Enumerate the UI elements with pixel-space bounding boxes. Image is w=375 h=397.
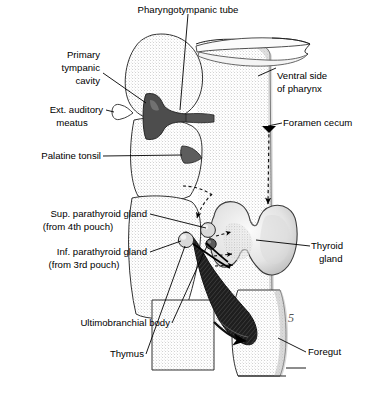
sup-parathyroid-gland — [201, 223, 216, 238]
label-foramen-cecum: Foramen cecum — [283, 117, 352, 128]
label-inf-parathyroid-line2: (from 3rd pouch) — [49, 259, 120, 270]
label-primary-tympanic-cavity-line1: Primary — [67, 49, 100, 60]
anatomy-figure: 5 Pharyngotympanic tube Primary tympanic… — [0, 0, 375, 397]
pharyngotympanic-tube — [186, 113, 214, 122]
label-palatine-tonsil: Palatine tonsil — [41, 150, 101, 161]
label-sup-parathyroid-line1: Sup. parathyroid gland — [50, 208, 147, 219]
label-sup-parathyroid-line2: (from 4th pouch) — [43, 221, 113, 232]
label-pharyngotympanic-tube: Pharyngotympanic tube — [138, 4, 239, 15]
label-ext-auditory-meatus-line2: meatus — [56, 117, 88, 128]
ext-auditory-meatus — [112, 104, 133, 119]
label-primary-tympanic-cavity-line2: tympanic — [62, 62, 101, 73]
label-ultimobranchial-body: Ultimobranchial body — [80, 317, 170, 328]
label-ventral-side-line1: Ventral side — [277, 70, 327, 81]
label-inf-parathyroid-line1: Inf. parathyroid gland — [57, 246, 147, 257]
label-thyroid-gland-line2: gland — [319, 253, 342, 264]
label-thymus: Thymus — [110, 348, 144, 359]
label-ventral-side-line2: of pharynx — [277, 83, 322, 94]
diagram-canvas: 5 Pharyngotympanic tube Primary tympanic… — [0, 0, 375, 397]
label-foregut: Foregut — [308, 346, 341, 357]
label-primary-tympanic-cavity-line3: cavity — [75, 75, 100, 86]
foregut-pouch-number: 5 — [288, 311, 294, 325]
inf-parathyroid-gland — [178, 232, 193, 247]
label-ext-auditory-meatus-line1: Ext. auditory — [50, 104, 104, 115]
label-thyroid-gland-line1: Thyroid — [311, 240, 343, 251]
